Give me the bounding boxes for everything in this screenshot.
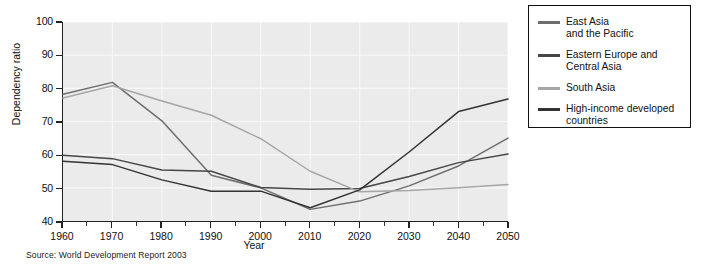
legend-swatch-icon xyxy=(538,108,560,111)
legend-item[interactable]: High-income developed countries xyxy=(538,103,674,126)
legend-swatch-icon xyxy=(538,87,560,90)
series-line-1 xyxy=(63,154,508,189)
x-tick-mark-major xyxy=(408,222,409,228)
y-tick-label: 80 xyxy=(19,83,53,94)
legend-label: East Asia and the Pacific xyxy=(566,16,634,39)
x-tick-mark-major xyxy=(507,222,508,228)
legend-item[interactable]: East Asia and the Pacific xyxy=(538,16,634,39)
x-tick-mark-minor xyxy=(136,222,137,226)
y-tick-label: 50 xyxy=(19,183,53,194)
x-tick-mark-minor xyxy=(285,222,286,226)
x-tick-mark-major xyxy=(359,222,360,228)
legend: East Asia and the PacificEastern Europe … xyxy=(528,5,691,128)
x-tick-mark-major xyxy=(260,222,261,228)
y-tick-label: 70 xyxy=(19,116,53,127)
plot-area xyxy=(62,22,508,222)
source-note: Source: World Development Report 2003 xyxy=(26,250,187,260)
y-tick-label: 100 xyxy=(19,16,53,27)
legend-item[interactable]: Eastern Europe and Central Asia xyxy=(538,49,658,72)
legend-swatch-icon xyxy=(538,54,560,57)
series-lines xyxy=(63,22,508,221)
x-tick-mark-minor xyxy=(433,222,434,226)
legend-swatch-icon xyxy=(538,21,560,24)
legend-label: South Asia xyxy=(566,82,615,94)
y-tick-label: 60 xyxy=(19,149,53,160)
x-tick-mark-minor xyxy=(483,222,484,226)
x-tick-mark-minor xyxy=(86,222,87,226)
x-tick-mark-minor xyxy=(384,222,385,226)
series-line-0 xyxy=(63,82,508,209)
x-tick-mark-major xyxy=(61,222,62,228)
y-tick-label: 90 xyxy=(19,49,53,60)
legend-label: High-income developed countries xyxy=(566,103,674,126)
x-tick-mark-major xyxy=(111,222,112,228)
x-tick-mark-major xyxy=(458,222,459,228)
legend-label: Eastern Europe and Central Asia xyxy=(566,49,658,72)
x-tick-mark-minor xyxy=(334,222,335,226)
x-tick-mark-minor xyxy=(185,222,186,226)
x-tick-mark-major xyxy=(210,222,211,228)
series-line-3 xyxy=(63,99,508,208)
x-tick-mark-major xyxy=(160,222,161,228)
series-line-2 xyxy=(63,86,508,192)
figure: Dependency ratio 405060708090100 1960197… xyxy=(0,0,715,270)
legend-item[interactable]: South Asia xyxy=(538,82,615,94)
x-tick-mark-minor xyxy=(235,222,236,226)
x-tick-mark-major xyxy=(309,222,310,228)
